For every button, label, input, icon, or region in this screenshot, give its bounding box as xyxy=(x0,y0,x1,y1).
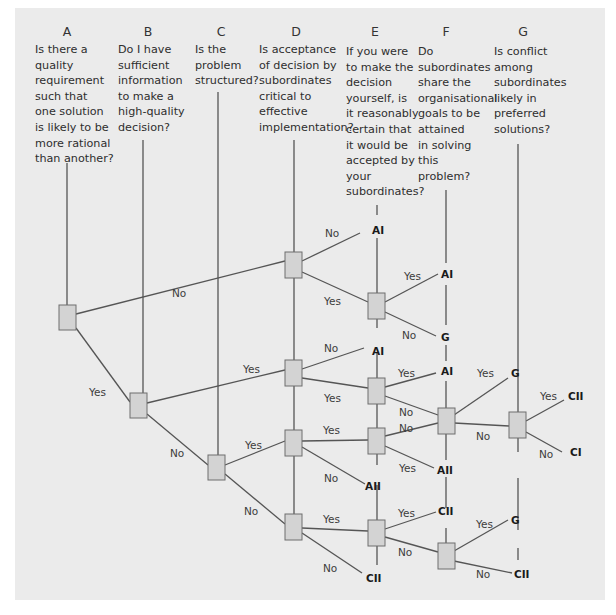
node-e4 xyxy=(368,520,385,546)
label-e3-yes: Yes xyxy=(398,462,416,474)
label-b-no: No xyxy=(170,447,184,459)
label-e2-yes: Yes xyxy=(397,367,415,379)
node-d4 xyxy=(285,514,302,540)
outcome-e2-yes: AI xyxy=(441,365,453,377)
node-e3 xyxy=(368,428,385,454)
edge-f1-yes xyxy=(454,378,508,415)
label-d4-no: No xyxy=(323,562,337,574)
outcome-e3-yes: AII xyxy=(437,464,453,476)
label-f2-no: No xyxy=(476,568,490,580)
label-b-yes: Yes xyxy=(242,363,260,375)
outcome-d1-no: AI xyxy=(372,224,384,236)
node-d1 xyxy=(285,252,302,278)
label-d2-no: No xyxy=(324,342,338,354)
outcome-d3-no: AII xyxy=(365,480,381,492)
edge-d3-yes xyxy=(302,440,368,441)
label-c-no: No xyxy=(244,505,258,517)
label-d4-yes: Yes xyxy=(322,513,340,525)
outcome-d4-no: CII xyxy=(366,572,382,584)
label-d1-no: No xyxy=(325,227,339,239)
label-d2-yes: Yes xyxy=(323,392,341,404)
label-d3-no: No xyxy=(324,472,338,484)
outcome-g1-no: CI xyxy=(570,446,582,458)
node-a xyxy=(59,305,76,330)
label-e2-no: No xyxy=(399,406,413,418)
branch-labels: No Yes Yes No Yes No No Yes Yes No No Ye… xyxy=(88,227,557,580)
node-f2 xyxy=(438,543,455,569)
edge-b-yes xyxy=(147,370,285,403)
label-d3-yes: Yes xyxy=(322,424,340,436)
label-f1-no: No xyxy=(476,430,490,442)
label-e1-yes: Yes xyxy=(403,270,421,282)
label-e3-no: No xyxy=(399,422,413,434)
node-c xyxy=(208,455,225,480)
outcome-e4-yes: CII xyxy=(438,505,454,517)
label-g1-yes: Yes xyxy=(539,390,557,402)
label-f1-yes: Yes xyxy=(476,367,494,379)
label-e4-yes: Yes xyxy=(397,507,415,519)
node-b xyxy=(130,393,147,418)
outcome-f2-yes: G xyxy=(511,514,520,526)
label-e4-no: No xyxy=(398,546,412,558)
node-e1 xyxy=(368,293,385,319)
nodes xyxy=(59,252,526,569)
edge-d4-yes xyxy=(302,528,368,531)
label-c-yes: Yes xyxy=(244,439,262,451)
outcome-e1-yes: AI xyxy=(441,268,453,280)
node-g1 xyxy=(509,412,526,438)
label-a-yes: Yes xyxy=(88,386,106,398)
node-d3 xyxy=(285,430,302,456)
edge-d2-yes xyxy=(302,378,368,388)
label-d1-yes: Yes xyxy=(323,295,341,307)
label-e1-no: No xyxy=(402,329,416,341)
outcomes: AI AI G AI AI AII AII G CII CI CII CII G… xyxy=(365,224,584,584)
decision-tree: No Yes Yes No Yes No No Yes Yes No No Ye… xyxy=(0,0,616,615)
label-g1-no: No xyxy=(539,448,553,460)
node-d2 xyxy=(285,360,302,386)
column-guides xyxy=(67,92,518,565)
edge-f1-no xyxy=(454,423,509,426)
node-f1 xyxy=(438,408,455,434)
outcome-e1-no: G xyxy=(441,331,450,343)
label-f2-yes: Yes xyxy=(475,518,493,530)
outcome-d2-no: AI xyxy=(372,345,384,357)
outcome-g1-yes: CII xyxy=(568,390,584,402)
outcome-f1-yes: G xyxy=(511,367,520,379)
edge-g1-yes xyxy=(526,400,564,421)
node-e2 xyxy=(368,378,385,404)
label-a-no: No xyxy=(172,287,186,299)
outcome-f2-no: CII xyxy=(514,568,530,580)
